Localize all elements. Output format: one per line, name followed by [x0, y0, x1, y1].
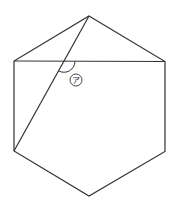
angle-label-text: ア: [72, 76, 80, 85]
angle-label: ア: [70, 74, 82, 86]
hexagon-outline: [14, 16, 165, 196]
horizontal-diagonal: [14, 61, 165, 62]
diagram-canvas: ア: [0, 0, 178, 205]
hexagon-figure: ア: [0, 0, 178, 205]
